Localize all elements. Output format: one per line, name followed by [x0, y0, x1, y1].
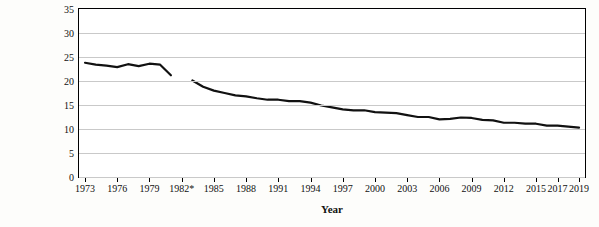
x-axis-tick-labels: 1973197619791982*19851988199119941997200… — [78, 183, 586, 199]
y-axis-tick-label: 5 — [50, 148, 74, 159]
x-axis-tick — [117, 178, 118, 182]
x-axis-tick — [278, 178, 279, 182]
y-axis-tick-label: 15 — [50, 100, 74, 111]
plot-area — [78, 8, 586, 178]
x-axis-tick-label: 2000 — [365, 183, 385, 194]
x-axis-tick-label: 2019 — [569, 183, 589, 194]
x-axis-title: Year — [78, 203, 586, 215]
x-axis-tick-label: 1973 — [75, 183, 95, 194]
x-axis-tick — [579, 178, 580, 182]
x-axis-tick-label: 2012 — [494, 183, 514, 194]
x-axis-tick-label: 1991 — [268, 183, 288, 194]
x-axis-tick — [214, 178, 215, 182]
x-axis-tick-label: 1979 — [139, 183, 159, 194]
x-axis-tick — [472, 178, 473, 182]
x-axis-tick — [85, 178, 86, 182]
gridline — [79, 81, 585, 82]
x-axis-tick — [182, 178, 183, 182]
gridline — [79, 105, 585, 106]
gridline — [79, 153, 585, 154]
x-axis-tick-label: 2009 — [462, 183, 482, 194]
series-lines — [79, 9, 585, 177]
x-axis-tick-label: 2003 — [397, 183, 417, 194]
x-axis-tick-label: 2006 — [429, 183, 449, 194]
y-axis-tick-label: 35 — [50, 4, 74, 15]
y-axis-tick-label: 10 — [50, 124, 74, 135]
y-axis-tick-label: 20 — [50, 76, 74, 87]
gridline — [79, 129, 585, 130]
gridline — [79, 33, 585, 34]
series-line — [85, 63, 171, 75]
x-axis-tick — [311, 178, 312, 182]
x-axis-tick-label: 1982* — [169, 183, 194, 194]
x-axis-tick-label: 1988 — [236, 183, 256, 194]
x-axis-tick — [439, 178, 440, 182]
y-axis-tick-labels: 05101520253035 — [48, 8, 74, 178]
y-axis-tick-label: 30 — [50, 28, 74, 39]
y-axis-tick-label: 25 — [50, 52, 74, 63]
x-axis-tick — [149, 178, 150, 182]
x-axis-tick — [504, 178, 505, 182]
x-axis-tick-label: 1997 — [333, 183, 353, 194]
x-axis-tick-label: 1976 — [107, 183, 127, 194]
x-axis-tick-label: 2017 — [548, 183, 568, 194]
gridline — [79, 57, 585, 58]
gridline — [79, 9, 585, 10]
x-axis-tick-label: 1994 — [301, 183, 321, 194]
x-axis-tick — [407, 178, 408, 182]
x-axis-tick-label: 2015 — [526, 183, 546, 194]
y-axis-tick-label: 0 — [50, 172, 74, 183]
x-axis-tick-label: 1985 — [204, 183, 224, 194]
x-axis-tick — [375, 178, 376, 182]
x-axis-tick — [558, 178, 559, 182]
x-axis-tick — [536, 178, 537, 182]
y-axis-title-wrapper: Percentage of employed workers who are u… — [14, 8, 50, 178]
union-membership-line-chart: Percentage of employed workers who are u… — [0, 0, 599, 227]
x-axis-tick — [246, 178, 247, 182]
x-axis-tick — [343, 178, 344, 182]
